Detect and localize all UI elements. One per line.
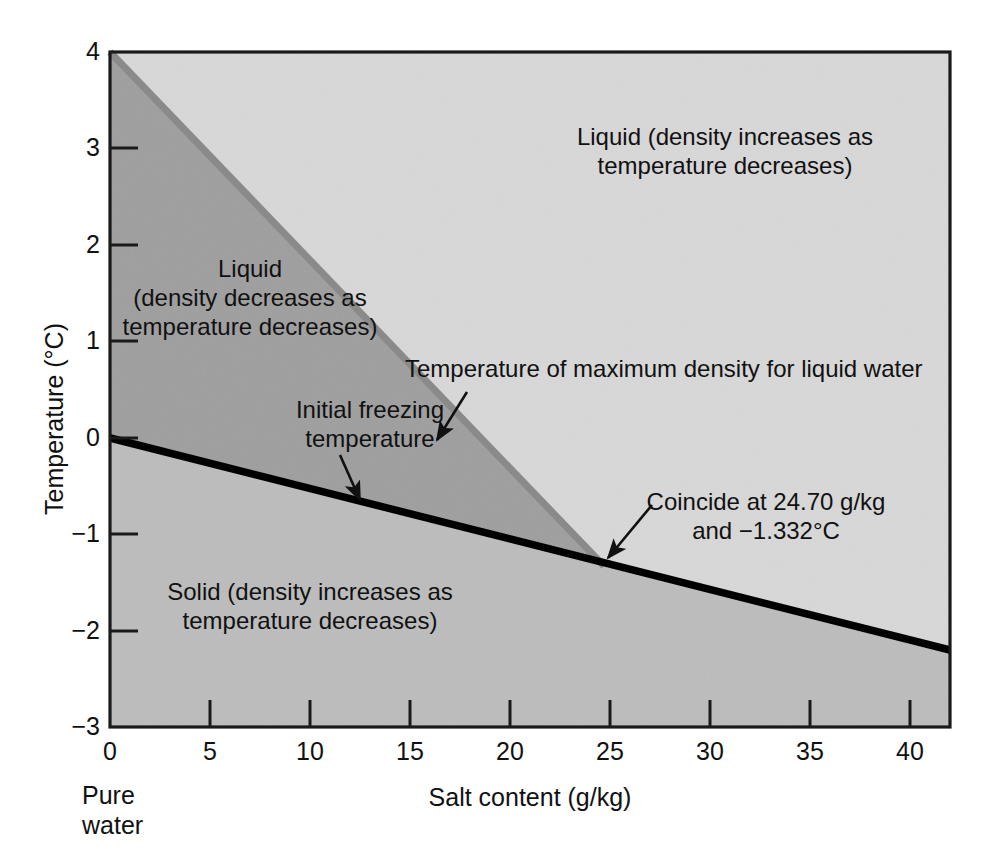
region-label-solid-line2: temperature decreases) — [145, 607, 475, 635]
y-tick-label-neg3: −3 — [44, 712, 100, 742]
x-tick-label-20: 20 — [480, 737, 540, 767]
region-label-liquid-decreases-line2: (density decreases as — [115, 284, 385, 312]
region-label-liquid-increases-line2: temperature decreases) — [540, 152, 910, 180]
phase-diagram-figure: 0 5 10 15 20 25 30 35 40 4 3 2 1 0 −1 −2… — [0, 0, 994, 863]
callout-initial-freezing-line2: temperature — [270, 425, 470, 453]
origin-note-water: water — [82, 810, 222, 841]
y-tick-label-4: 4 — [52, 37, 100, 67]
y-tick-label-neg1: −1 — [44, 519, 100, 549]
x-tick-label-5: 5 — [180, 737, 240, 767]
x-tick-label-15: 15 — [380, 737, 440, 767]
y-axis-title: Temperature (°C) — [40, 323, 69, 515]
x-tick-label-40: 40 — [880, 737, 940, 767]
x-tick-label-25: 25 — [580, 737, 640, 767]
x-axis-title: Salt content (g/kg) — [400, 783, 660, 813]
x-tick-label-35: 35 — [780, 737, 840, 767]
y-tick-label-3: 3 — [52, 133, 100, 163]
callout-max-density: Temperature of maximum density for liqui… — [405, 355, 905, 383]
callout-coincide-line2: and −1.332°C — [636, 517, 896, 545]
y-tick-label-neg2: −2 — [44, 616, 100, 646]
callout-coincide-line1: Coincide at 24.70 g/kg — [636, 488, 896, 516]
x-tick-label-30: 30 — [680, 737, 740, 767]
region-label-liquid-decreases-line3: temperature decreases) — [115, 313, 385, 341]
region-label-liquid-decreases-line1: Liquid — [115, 255, 385, 283]
x-tick-label-10: 10 — [280, 737, 340, 767]
callout-initial-freezing-line1: Initial freezing — [270, 396, 470, 424]
region-label-solid-line1: Solid (density increases as — [145, 578, 475, 606]
region-label-liquid-increases-line1: Liquid (density increases as — [540, 123, 910, 151]
y-tick-label-2: 2 — [52, 230, 100, 260]
origin-note-pure: Pure — [82, 780, 222, 811]
